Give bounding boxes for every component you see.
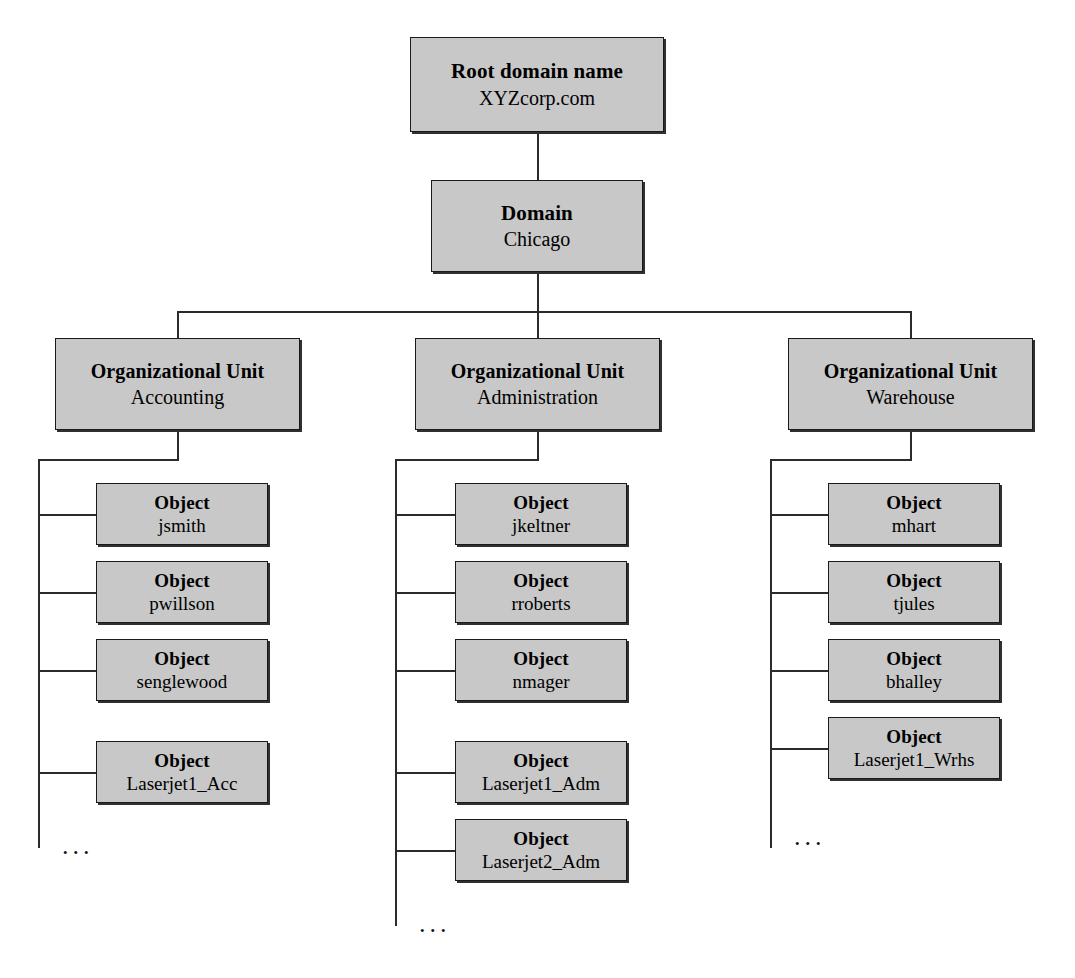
- node-ou-accounting[interactable]: Organizational Unit Accounting: [55, 338, 300, 430]
- node-object-laserjet1-wrhs-value: Laserjet1_Wrhs: [854, 749, 975, 770]
- connector-accounting-branch-3: [38, 670, 98, 672]
- node-domain-label: Domain: [501, 202, 573, 226]
- node-object-pwillson-value: pwillson: [149, 593, 214, 614]
- node-object-senglewood-label: Object: [154, 648, 209, 669]
- connector-administration-branch-1: [395, 514, 457, 516]
- connector-administration-branch-5: [395, 850, 457, 852]
- node-object-mhart[interactable]: Object mhart: [828, 483, 1000, 545]
- node-object-nmager-label: Object: [513, 648, 568, 669]
- node-ou-warehouse[interactable]: Organizational Unit Warehouse: [788, 338, 1033, 430]
- node-object-jsmith-value: jsmith: [158, 515, 206, 536]
- node-object-bhalley-label: Object: [886, 648, 941, 669]
- connector-administration-stub: [537, 430, 539, 460]
- connector-administration-spine: [395, 459, 397, 926]
- node-domain-value: Chicago: [504, 228, 571, 250]
- node-object-bhalley-value: bhalley: [886, 671, 942, 692]
- node-object-rroberts[interactable]: Object rroberts: [455, 561, 627, 623]
- node-object-laserjet1-wrhs[interactable]: Object Laserjet1_Wrhs: [828, 717, 1000, 779]
- node-object-mhart-label: Object: [886, 492, 941, 513]
- node-object-senglewood-value: senglewood: [137, 671, 228, 692]
- diagram-canvas: Root domain name XYZcorp.com Domain Chic…: [0, 0, 1075, 978]
- connector-administration-branch-3: [395, 670, 457, 672]
- node-ou-accounting-label: Organizational Unit: [91, 360, 265, 382]
- connector-warehouse-branch-1: [770, 514, 830, 516]
- node-object-laserjet2-adm-label: Object: [513, 828, 568, 849]
- node-root-domain[interactable]: Root domain name XYZcorp.com: [410, 37, 664, 132]
- node-object-tjules-label: Object: [886, 570, 941, 591]
- connector-accounting-branch-1: [38, 514, 98, 516]
- connector-root-to-domain: [537, 132, 539, 180]
- node-ou-warehouse-value: Warehouse: [866, 386, 954, 408]
- node-object-tjules[interactable]: Object tjules: [828, 561, 1000, 623]
- ellipsis-warehouse: ...: [794, 824, 826, 850]
- node-object-nmager[interactable]: Object nmager: [455, 639, 627, 701]
- ellipsis-administration: ...: [419, 911, 451, 937]
- node-object-nmager-value: nmager: [513, 671, 570, 692]
- connector-warehouse-branch-2: [770, 592, 830, 594]
- node-object-pwillson[interactable]: Object pwillson: [96, 561, 268, 623]
- connector-accounting-stub: [177, 430, 179, 460]
- node-ou-administration[interactable]: Organizational Unit Administration: [415, 338, 660, 430]
- node-object-laserjet1-adm-label: Object: [513, 750, 568, 771]
- connector-bus-drop-administration: [537, 311, 539, 339]
- node-ou-warehouse-label: Organizational Unit: [824, 360, 998, 382]
- connector-accounting-spine: [38, 459, 40, 848]
- node-object-jkeltner-label: Object: [513, 492, 568, 513]
- node-object-jsmith-label: Object: [154, 492, 209, 513]
- node-object-pwillson-label: Object: [154, 570, 209, 591]
- connector-administration-branch-2: [395, 592, 457, 594]
- node-object-laserjet2-adm[interactable]: Object Laserjet2_Adm: [455, 819, 627, 881]
- node-object-laserjet1-acc-label: Object: [154, 750, 209, 771]
- connector-accounting-branch-2: [38, 592, 98, 594]
- node-object-laserjet1-adm[interactable]: Object Laserjet1_Adm: [455, 741, 627, 803]
- node-object-laserjet2-adm-value: Laserjet2_Adm: [482, 851, 600, 872]
- connector-warehouse-spine: [770, 459, 772, 848]
- node-object-laserjet1-adm-value: Laserjet1_Adm: [482, 773, 600, 794]
- connector-bus-drop-accounting: [177, 311, 179, 339]
- connector-accounting-elbow: [38, 459, 179, 461]
- connector-warehouse-elbow: [770, 459, 912, 461]
- node-ou-accounting-value: Accounting: [131, 386, 224, 408]
- node-root-domain-value: XYZcorp.com: [479, 87, 595, 109]
- node-object-bhalley[interactable]: Object bhalley: [828, 639, 1000, 701]
- node-object-laserjet1-acc-value: Laserjet1_Acc: [127, 773, 238, 794]
- node-object-mhart-value: mhart: [892, 515, 936, 536]
- connector-ou-bus: [177, 311, 912, 313]
- node-ou-administration-label: Organizational Unit: [451, 360, 625, 382]
- connector-domain-down: [537, 272, 539, 313]
- connector-accounting-branch-4: [38, 772, 98, 774]
- node-domain[interactable]: Domain Chicago: [431, 180, 643, 272]
- connector-warehouse-stub: [910, 430, 912, 460]
- node-ou-administration-value: Administration: [477, 386, 598, 408]
- node-object-tjules-value: tjules: [893, 593, 934, 614]
- node-object-senglewood[interactable]: Object senglewood: [96, 639, 268, 701]
- connector-warehouse-branch-4: [770, 748, 830, 750]
- ellipsis-accounting: ...: [62, 833, 94, 859]
- node-object-laserjet1-wrhs-label: Object: [886, 726, 941, 747]
- node-object-laserjet1-acc[interactable]: Object Laserjet1_Acc: [96, 741, 268, 803]
- node-object-rroberts-value: rroberts: [511, 593, 570, 614]
- connector-warehouse-branch-3: [770, 670, 830, 672]
- connector-bus-drop-warehouse: [910, 311, 912, 339]
- connector-administration-branch-4: [395, 772, 457, 774]
- node-object-jkeltner-value: jkeltner: [512, 515, 570, 536]
- node-object-rroberts-label: Object: [513, 570, 568, 591]
- connector-administration-elbow: [395, 459, 539, 461]
- node-object-jkeltner[interactable]: Object jkeltner: [455, 483, 627, 545]
- node-root-domain-label: Root domain name: [451, 60, 623, 84]
- node-object-jsmith[interactable]: Object jsmith: [96, 483, 268, 545]
